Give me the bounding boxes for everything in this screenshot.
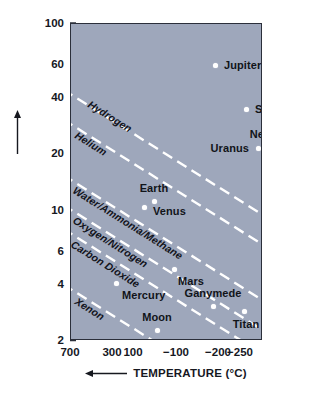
x-tick-label: 700 bbox=[60, 346, 79, 358]
y-tick-label: 4 bbox=[30, 278, 64, 290]
y-tick-label: 10 bbox=[30, 204, 64, 216]
x-axis-title-row: TEMPERATURE (°C) bbox=[70, 367, 262, 379]
escape-speed-chart: SPEED (km/s) 10060402010642 700300100−10… bbox=[0, 0, 330, 402]
y-tick-label: 60 bbox=[30, 58, 64, 70]
plot-area: JupiterSaturnNeptuneUranusEarthVenusMars… bbox=[70, 23, 262, 340]
x-tick-label: 100 bbox=[123, 346, 142, 358]
y-tick-label: 20 bbox=[30, 147, 64, 159]
y-tick-label: 100 bbox=[30, 17, 64, 29]
gas-retention-lines bbox=[71, 24, 261, 339]
y-tick-label: 2 bbox=[30, 334, 64, 346]
y-axis-arrow-icon bbox=[12, 110, 23, 154]
y-tick-label: 40 bbox=[30, 91, 64, 103]
y-tick-label: 6 bbox=[30, 245, 64, 257]
x-axis-arrow-icon bbox=[85, 368, 127, 379]
x-tick-label: 300 bbox=[102, 346, 121, 358]
x-tick-label: −100 bbox=[163, 346, 189, 358]
x-axis-title: TEMPERATURE (°C) bbox=[133, 367, 247, 379]
x-tick-label: −250 bbox=[227, 346, 253, 358]
